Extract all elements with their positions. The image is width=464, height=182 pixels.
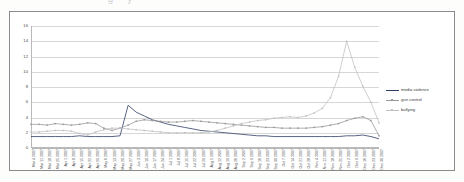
y-tick-label: 12 bbox=[23, 54, 28, 58]
y-tick-label: 16 bbox=[23, 24, 28, 28]
series-marker bbox=[200, 132, 202, 134]
x-tick-label: Sep 2 2007 bbox=[243, 149, 247, 167]
x-tick-label: Mar 11 2007 bbox=[41, 149, 45, 169]
x-tick-label: Dec 2 2007 bbox=[348, 149, 352, 167]
x-tick-label: May 6 2007 bbox=[105, 149, 109, 168]
series-marker bbox=[111, 127, 113, 129]
legend-item[interactable]: media violence bbox=[386, 86, 462, 95]
series-marker bbox=[281, 127, 283, 129]
series-marker bbox=[208, 121, 210, 123]
series-marker bbox=[354, 66, 356, 68]
series-marker bbox=[322, 126, 324, 128]
series-marker bbox=[63, 130, 65, 132]
chart-frame: 1614121086420 Mar 4 2007Mar 11 2007Mar 1… bbox=[9, 11, 455, 171]
series-marker bbox=[144, 130, 146, 132]
x-tick-label: Apr 29 2007 bbox=[97, 149, 101, 169]
series-marker bbox=[79, 124, 81, 126]
x-tick-label: Aug 12 2007 bbox=[219, 149, 223, 169]
x-tick-label: Jul 22 2007 bbox=[194, 149, 198, 168]
x-tick-label: Nov 18 2007 bbox=[332, 149, 336, 169]
series-marker bbox=[305, 115, 307, 117]
x-tick-label: Sep 30 2007 bbox=[275, 149, 279, 169]
series-marker bbox=[144, 119, 146, 121]
y-tick-label: 2 bbox=[26, 131, 28, 135]
legend-swatch bbox=[386, 88, 399, 93]
series-marker bbox=[208, 131, 210, 133]
series-marker bbox=[249, 121, 251, 123]
series-marker bbox=[152, 120, 154, 122]
series-marker bbox=[346, 120, 348, 122]
series-marker bbox=[55, 130, 57, 132]
series-marker bbox=[289, 116, 291, 118]
series-marker bbox=[71, 124, 73, 126]
x-tick-label: Jul 1 2007 bbox=[170, 149, 174, 166]
x-tick-label: Apr 8 2007 bbox=[73, 149, 77, 167]
series-marker bbox=[265, 127, 267, 129]
series-marker bbox=[63, 124, 65, 126]
chart-legend: media violencegun controlbullying bbox=[386, 86, 462, 116]
series-marker bbox=[249, 125, 251, 127]
series-marker bbox=[127, 128, 128, 130]
series-marker bbox=[273, 127, 275, 129]
series-marker bbox=[289, 127, 291, 129]
x-tick-label: Nov 11 2007 bbox=[324, 149, 328, 169]
y-tick-label: 10 bbox=[23, 70, 28, 74]
y-tick-label: 0 bbox=[26, 146, 28, 150]
x-tick-label: Apr 22 2007 bbox=[89, 149, 93, 169]
x-tick-label: Sep 23 2007 bbox=[267, 149, 271, 169]
series-marker bbox=[370, 102, 372, 104]
x-tick-label: Mar 4 2007 bbox=[33, 149, 37, 167]
series-marker bbox=[362, 85, 364, 87]
series-marker bbox=[200, 121, 202, 123]
x-tick-label: Dec 16 2007 bbox=[364, 149, 368, 169]
x-tick-label: Aug 26 2007 bbox=[235, 149, 239, 169]
series-marker bbox=[216, 122, 218, 124]
series-marker bbox=[297, 127, 299, 129]
series-marker bbox=[265, 119, 267, 121]
series-marker bbox=[338, 76, 340, 78]
series-marker bbox=[135, 129, 137, 131]
x-tick-label: Dec 30 2007 bbox=[381, 149, 385, 169]
x-tick-label: May 27 2007 bbox=[130, 149, 134, 170]
y-tick-label: 4 bbox=[26, 115, 28, 119]
x-tick-label: Apr 15 2007 bbox=[81, 149, 85, 169]
x-tick-label: Jul 8 2007 bbox=[178, 149, 182, 166]
series-marker bbox=[257, 120, 259, 122]
series-marker bbox=[305, 127, 307, 129]
series-marker bbox=[378, 135, 380, 137]
series-marker bbox=[233, 124, 235, 126]
x-tick-label: Nov 25 2007 bbox=[340, 149, 344, 169]
x-tick-label: Apr 1 2007 bbox=[65, 149, 69, 167]
y-tick-label: 6 bbox=[26, 100, 28, 104]
series-marker bbox=[241, 124, 243, 126]
x-tick-label: May 20 2007 bbox=[122, 149, 126, 170]
series-marker bbox=[87, 134, 89, 136]
x-tick-label: Mar 18 2007 bbox=[49, 149, 53, 169]
series-marker bbox=[46, 130, 48, 132]
series-marker bbox=[30, 131, 32, 133]
series-line bbox=[31, 41, 379, 135]
series-marker bbox=[192, 132, 194, 134]
x-axis-labels: Mar 4 2007Mar 11 2007Mar 18 2007Mar 25 2… bbox=[31, 149, 379, 182]
x-tick-label: Mar 25 2007 bbox=[57, 149, 61, 169]
legend-item[interactable]: bullying bbox=[386, 106, 462, 115]
x-tick-label: Oct 21 2007 bbox=[300, 149, 304, 169]
series-marker bbox=[224, 123, 226, 125]
series-marker bbox=[184, 132, 186, 134]
x-tick-label: Aug 19 2007 bbox=[227, 149, 231, 169]
chart-screenshot: g y 1614121086420 Mar 4 2007Mar 11 2007M… bbox=[0, 0, 464, 182]
series-marker bbox=[362, 116, 364, 118]
series-marker bbox=[338, 123, 340, 125]
series-line bbox=[31, 117, 379, 136]
x-tick-label: Dec 23 2007 bbox=[373, 149, 377, 169]
series-marker bbox=[160, 121, 162, 123]
series-marker bbox=[378, 122, 380, 124]
legend-swatch bbox=[386, 108, 399, 113]
y-axis-labels: 1614121086420 bbox=[10, 26, 30, 148]
series-marker bbox=[216, 130, 218, 132]
series-marker bbox=[241, 123, 243, 125]
series-marker bbox=[346, 41, 348, 43]
legend-item[interactable]: gun control bbox=[386, 96, 462, 105]
series-lines bbox=[31, 26, 379, 148]
legend-label: gun control bbox=[401, 98, 422, 102]
